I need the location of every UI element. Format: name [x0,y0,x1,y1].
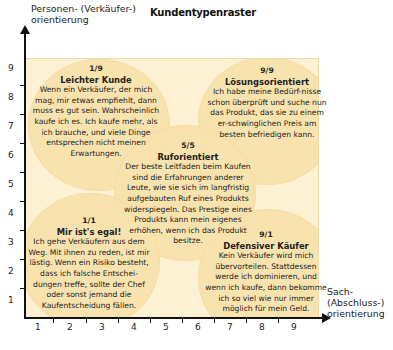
x-tick-label: 6 [195,322,201,332]
y-tick-label: 6 [8,150,14,160]
y-axis-line [24,33,26,319]
x-tick-mark [214,318,215,323]
x-tick-label: 5 [163,322,169,332]
x-tick-mark [86,318,87,323]
grid-position: 9/9 [206,66,328,77]
x-axis-label-line3: orientierung [327,308,385,319]
x-tick-mark [150,318,151,323]
x-tick-label: 7 [227,322,233,332]
y-tick-mark [20,201,25,202]
y-tick-label: 1 [8,295,14,305]
type-name: Leichter Kunde [30,75,162,86]
type-mir-ists-egal: 1/1 Mir ist's egal! Ich gehe Verkäufern … [28,216,150,311]
x-tick-label: 1 [35,322,41,332]
y-axis-label-line2: orientierung [31,14,136,25]
y-tick-mark [20,143,25,144]
y-tick-label: 2 [8,266,14,276]
x-tick-mark [278,318,279,323]
x-tick-mark [182,318,183,323]
type-loesungsorientiert: 9/9 Lösungsorientiert Ich habe meine Bed… [206,66,328,140]
type-defensiver-kaeufer: 9/1 Defensiver Käufer Kein Verkäufer wir… [204,230,328,315]
x-tick-mark [246,318,247,323]
y-tick-mark [20,259,25,260]
type-name: Mir ist's egal! [28,227,150,238]
type-description: Ich gehe Verkäufern aus dem Weg. Mit ihn… [28,237,149,310]
type-name: Lösungsorientiert [206,77,328,88]
y-axis-arrow-icon [20,25,30,34]
y-tick-mark [20,288,25,289]
y-tick-label: 5 [8,179,14,189]
grid-position: 9/1 [204,230,328,241]
type-description: Kein Verkäufer wird mich übervorteilen. … [205,251,327,313]
x-tick-label: 2 [67,322,73,332]
type-name: Ruforientiert [124,152,252,163]
type-name: Defensiver Käufer [204,241,328,252]
x-axis-label: Sach- (Abschluss-) orientierung [327,286,385,319]
grid-position: 1/1 [28,216,150,227]
x-axis-label-line1: Sach- [327,286,385,297]
y-tick-label: 4 [8,208,14,218]
y-tick-mark [20,114,25,115]
y-tick-label: 3 [8,237,14,247]
y-tick-label: 9 [8,63,14,73]
grid-position: 1/9 [30,64,162,75]
y-tick-label: 7 [8,121,14,131]
y-tick-mark [20,230,25,231]
y-tick-mark [20,172,25,173]
y-axis-label: Personen- (Verkäufer-) orientierung [31,3,136,25]
x-tick-label: 8 [259,322,265,332]
y-tick-label: 8 [8,92,14,102]
y-axis-label-line1: Personen- (Verkäufer-) [31,3,136,14]
x-axis-line [24,317,324,319]
y-tick-mark [20,85,25,86]
x-tick-label: 9 [291,322,297,332]
diagram-title: Kundentypenraster [150,7,256,18]
type-description: Ich habe meine Bedürf-nisse schon überpr… [207,87,326,138]
x-tick-mark [118,318,119,323]
grid-position: 5/5 [124,141,252,152]
x-tick-mark [53,318,54,323]
x-axis-label-line2: (Abschluss-) [327,297,385,308]
x-tick-label: 4 [131,322,137,332]
x-tick-label: 3 [99,322,105,332]
